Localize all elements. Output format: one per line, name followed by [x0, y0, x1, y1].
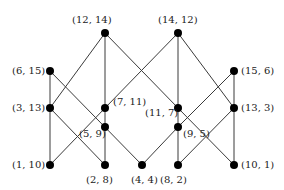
node-n9_5	[174, 123, 182, 131]
node-label: (4, 4)	[131, 174, 158, 186]
node-n3_13	[46, 104, 54, 112]
edge	[178, 33, 234, 108]
node-label: (12, 14)	[72, 14, 112, 26]
node-n7_11	[101, 104, 109, 112]
node-n6_15	[46, 67, 54, 75]
node-n10_1	[230, 161, 238, 169]
edge	[178, 71, 234, 127]
node-label: (13, 3)	[241, 102, 274, 114]
node-label: (15, 6)	[241, 65, 274, 77]
node-label: (7, 11)	[113, 96, 146, 108]
node-n8_2	[174, 161, 182, 169]
node-label: (10, 1)	[241, 159, 274, 171]
node-label: (1, 10)	[12, 159, 45, 171]
node-label: (14, 12)	[158, 14, 198, 26]
node-n13_3	[230, 104, 238, 112]
node-label: (9, 5)	[183, 128, 210, 140]
node-n1_10	[46, 161, 54, 169]
node-label: (8, 2)	[160, 174, 187, 186]
node-n12_14	[101, 29, 109, 37]
node-label: (5, 9)	[79, 128, 106, 140]
node-n4_4	[138, 161, 146, 169]
node-n14_12	[174, 29, 182, 37]
node-n2_8	[101, 161, 109, 169]
node-label: (11, 7)	[145, 107, 178, 119]
node-label: (2, 8)	[86, 174, 113, 186]
edge	[50, 33, 105, 108]
node-label: (3, 13)	[12, 102, 45, 114]
node-label: (6, 15)	[12, 65, 45, 77]
edge	[142, 127, 178, 165]
node-n15_6	[230, 67, 238, 75]
